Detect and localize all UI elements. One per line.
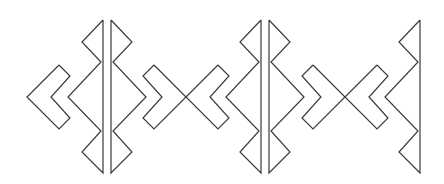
- right-half-column: [385, 20, 420, 173]
- pattern-canvas: [0, 0, 444, 184]
- x-cross-1: [143, 65, 229, 129]
- ornament-pattern: [0, 0, 444, 184]
- split-column-1: [68, 20, 146, 173]
- x-cross-2: [302, 65, 388, 129]
- split-column-2: [226, 20, 304, 173]
- left-chevron-motif: [27, 65, 70, 129]
